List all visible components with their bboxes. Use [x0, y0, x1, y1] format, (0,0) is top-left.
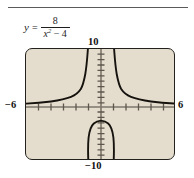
y-axis-max-label: 10	[88, 36, 99, 47]
curve-branch-left	[26, 49, 88, 104]
function-plot-svg	[26, 49, 175, 160]
equation-denominator-exponent: 2	[48, 27, 51, 34]
plot-area	[25, 48, 175, 160]
x-axis-max-label: 6	[178, 99, 183, 110]
equation-fraction: 8 x2 − 4	[41, 16, 70, 39]
x-axis-min-label: −6	[5, 99, 16, 110]
equation-lhs: y	[24, 22, 29, 33]
horizontal-divider-rule	[8, 7, 188, 8]
graphing-calculator-screen	[25, 48, 175, 160]
y-axis-min-label: −10	[85, 160, 101, 171]
axes-group	[26, 49, 175, 160]
curve-branch-right	[114, 49, 175, 104]
equation-denominator-rest: − 4	[54, 28, 67, 39]
equation-expression: y = 8 x2 − 4	[24, 16, 70, 39]
equation-denominator: x2 − 4	[41, 28, 70, 40]
equation-equals-sign: =	[32, 23, 38, 33]
equation-numerator: 8	[49, 16, 62, 27]
